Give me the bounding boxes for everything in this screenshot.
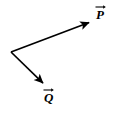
vector-p-label-text: P [96,7,104,22]
vector-q-label-text: Q [44,90,53,105]
vector-arrow-overbar-icon [95,4,106,9]
vector-arrow-overbar-icon [43,87,54,92]
vector-q-arrow [11,52,43,83]
vector-p-label: P [96,6,104,21]
vector-p-arrow [11,22,89,52]
vector-diagram: P Q [0,0,115,115]
vector-q-label: Q [44,89,53,104]
